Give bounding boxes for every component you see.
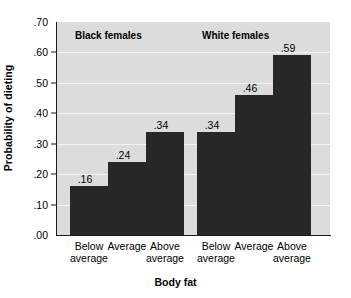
bar-value-label: .46 [231, 82, 269, 94]
group-header-black-females: Black females [75, 30, 142, 41]
y-axis-title-text: Probability of dieting [2, 64, 14, 171]
x-axis-tick-label: Aboveaverage [140, 240, 190, 264]
x-axis-tick-label-line: Above [140, 240, 190, 252]
y-axis-tick-label: .40 [33, 107, 48, 119]
bar-value-label: .59 [269, 42, 307, 54]
y-axis-tick-label: .20 [33, 168, 48, 180]
y-axis-tick-mark [51, 204, 56, 205]
bar [273, 55, 311, 235]
bar-value-label: .24 [104, 149, 142, 161]
x-axis-tick-label-line: average [140, 252, 190, 264]
x-axis-line [56, 235, 331, 236]
y-axis-tick-mark [51, 143, 56, 144]
bar [146, 132, 184, 235]
y-axis-title: Probability of dieting [0, 0, 16, 235]
y-axis-tick-label: .50 [33, 77, 48, 89]
y-axis-tick-mark [51, 82, 56, 83]
bar [197, 132, 235, 235]
x-axis-tick-label-line: average [267, 252, 317, 264]
y-axis-tick-label: .70 [33, 16, 48, 28]
x-axis-tick-label: Aboveaverage [267, 240, 317, 264]
bar-value-label: .34 [193, 119, 231, 131]
bar-value-label: .16 [66, 173, 104, 185]
bar-value-label: .34 [142, 119, 180, 131]
bar-chart-figure: Probability of dieting .70.60.50.40.30.2… [0, 0, 351, 298]
y-axis-tick-label: .30 [33, 138, 48, 150]
bar [108, 162, 146, 235]
bar [70, 186, 108, 235]
x-axis-tick-label-line: average [64, 252, 114, 264]
y-axis-tick-mark [51, 52, 56, 53]
y-axis-line [56, 22, 57, 236]
x-axis-tick-label-line: average [191, 252, 241, 264]
x-axis-tick-label-line: Above [267, 240, 317, 252]
y-axis-tick-label: .60 [33, 46, 48, 58]
y-axis-tick-labels: .70.60.50.40.30.20.10.00 [18, 22, 51, 235]
y-axis-tick-mark [51, 113, 56, 114]
group-header-white-females: White females [202, 30, 269, 41]
bar [235, 95, 273, 235]
y-axis-tick-label: .00 [33, 229, 48, 241]
y-axis-tick-label: .10 [33, 199, 48, 211]
y-axis-tick-mark [51, 174, 56, 175]
x-axis-title: Body fat [0, 276, 351, 288]
